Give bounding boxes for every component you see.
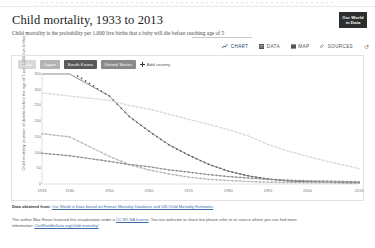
our-world-in-data-logo[interactable]: Our World in Data <box>339 12 367 28</box>
tab-sources[interactable]: SOURCES <box>320 44 353 50</box>
country-chip-united-states[interactable]: United States <box>101 60 137 69</box>
plus-icon <box>140 62 145 67</box>
x-axis-tick-label: 1933 <box>38 188 47 193</box>
owid-url-link[interactable]: OurWorldInData.org/child-mortality/ <box>35 223 99 228</box>
header-divider <box>192 37 252 38</box>
x-axis-tick-label: 1970 <box>184 188 193 193</box>
x-axis-tick-label: 1940 <box>65 188 74 193</box>
source-label: Data obtained from: <box>12 204 51 209</box>
tab-chart[interactable]: CHART <box>222 44 248 50</box>
chart-tabbar: CHART DATA MAP SOURCES ↺ <box>222 41 369 52</box>
country-chip-label: South Korea <box>68 62 94 67</box>
tab-map[interactable]: MAP <box>291 44 310 50</box>
x-axis-tick-label: 1990 <box>263 188 272 193</box>
x-axis-tick-label: 1960 <box>145 188 154 193</box>
source-line: Data obtained from: Our World in Data ba… <box>12 204 364 210</box>
chart-card: India Japan South Korea United States Ad… <box>11 55 364 201</box>
license-part-2: . You are welcome to share but please re… <box>149 217 297 222</box>
page-subtitle: Child mortality is the probability per 1… <box>12 30 365 37</box>
line-chart-svg <box>12 72 365 202</box>
country-chip-south-korea[interactable]: South Korea <box>64 60 98 69</box>
source-link[interactable]: Our World in Data based on Human Mortali… <box>52 204 213 209</box>
country-chip-label: Japan <box>44 62 56 67</box>
logo-line-2: in Data <box>339 20 367 25</box>
line-chart-icon <box>222 44 228 50</box>
table-icon <box>259 44 264 50</box>
chart-series-india <box>41 92 360 169</box>
paperclip-icon <box>320 44 325 50</box>
license-part-3: information: <box>12 223 33 228</box>
x-axis-tick-label: 1950 <box>105 188 114 193</box>
license-part-1: The author Max Roser licensed this visua… <box>12 217 115 222</box>
page-top-edge <box>0 0 375 7</box>
chart-plot-area: Child mortality (number of deaths before… <box>12 72 365 202</box>
license-link[interactable]: CC BY-SA license <box>116 217 149 222</box>
tab-data-label: DATA <box>267 44 280 49</box>
x-axis-ticks: 193319401950196019701980199020002013 <box>12 188 365 196</box>
country-chip-label: United States <box>105 62 133 67</box>
country-chip-japan[interactable]: Japan <box>40 60 60 69</box>
map-icon <box>291 44 296 50</box>
owid-chart-page: Child mortality, 1933 to 2013 Child mort… <box>0 0 375 248</box>
page-title: Child mortality, 1933 to 2013 <box>12 13 365 27</box>
tab-sources-label: SOURCES <box>328 44 353 49</box>
x-axis-tick-label: 2013 <box>355 188 364 193</box>
chart-footer: Data obtained from: Our World in Data ba… <box>12 204 364 229</box>
chart-svg-container <box>12 72 365 206</box>
tab-data[interactable]: DATA <box>259 44 279 50</box>
x-axis-tick-label: 2000 <box>303 188 312 193</box>
add-country-label: Add country <box>147 62 170 67</box>
chart-series-south-korea <box>42 74 360 184</box>
refresh-icon[interactable]: ↺ <box>364 43 369 51</box>
x-axis-tick-label: 1980 <box>224 188 233 193</box>
country-legend: India Japan South Korea United States Ad… <box>18 60 170 69</box>
add-country-button[interactable]: Add country <box>140 62 170 67</box>
tab-map-label: MAP <box>298 44 309 49</box>
license-text: The author Max Roser licensed this visua… <box>12 217 352 229</box>
tab-chart-label: CHART <box>231 44 249 49</box>
